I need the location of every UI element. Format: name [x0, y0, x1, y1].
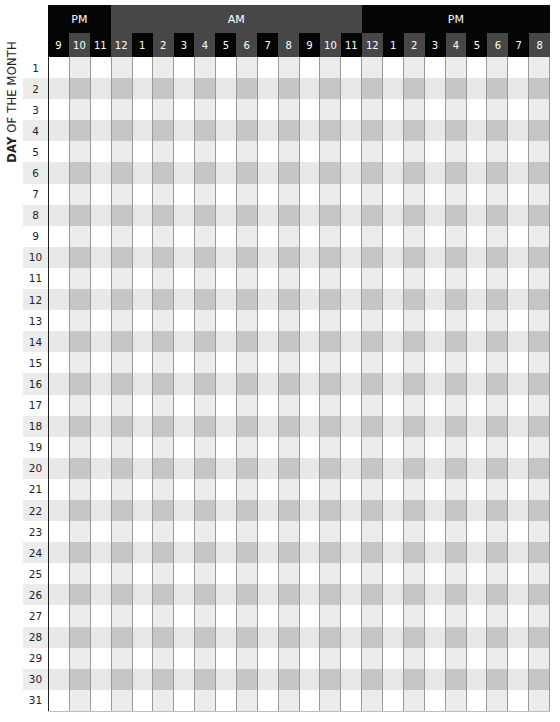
hour-cell[interactable]	[467, 99, 488, 120]
hour-cell[interactable]	[425, 563, 446, 584]
hour-cell[interactable]	[425, 605, 446, 626]
hour-cell[interactable]	[425, 584, 446, 605]
hour-cell[interactable]	[487, 584, 508, 605]
hour-cell[interactable]	[300, 542, 321, 563]
hour-cell[interactable]	[300, 268, 321, 289]
hour-cell[interactable]	[487, 395, 508, 416]
hour-cell[interactable]	[446, 162, 467, 183]
hour-cell[interactable]	[216, 542, 237, 563]
hour-cell[interactable]	[112, 500, 133, 521]
hour-cell[interactable]	[529, 331, 550, 352]
hour-cell[interactable]	[508, 247, 529, 268]
hour-cell[interactable]	[341, 57, 362, 78]
hour-cell[interactable]	[425, 99, 446, 120]
hour-cell[interactable]	[153, 289, 174, 310]
hour-cell[interactable]	[467, 627, 488, 648]
hour-cell[interactable]	[133, 247, 154, 268]
hour-cell[interactable]	[383, 205, 404, 226]
hour-cell[interactable]	[153, 78, 174, 99]
hour-cell[interactable]	[153, 627, 174, 648]
hour-cell[interactable]	[279, 669, 300, 690]
hour-cell[interactable]	[467, 437, 488, 458]
hour-cell[interactable]	[174, 184, 195, 205]
hour-cell[interactable]	[91, 669, 112, 690]
hour-cell[interactable]	[404, 395, 425, 416]
hour-cell[interactable]	[258, 521, 279, 542]
hour-cell[interactable]	[258, 247, 279, 268]
hour-cell[interactable]	[404, 542, 425, 563]
hour-cell[interactable]	[70, 542, 91, 563]
hour-cell[interactable]	[508, 226, 529, 247]
hour-cell[interactable]	[341, 184, 362, 205]
hour-cell[interactable]	[529, 605, 550, 626]
hour-cell[interactable]	[487, 268, 508, 289]
hour-cell[interactable]	[49, 289, 70, 310]
hour-cell[interactable]	[529, 669, 550, 690]
hour-cell[interactable]	[320, 542, 341, 563]
hour-cell[interactable]	[112, 289, 133, 310]
hour-cell[interactable]	[300, 331, 321, 352]
hour-cell[interactable]	[279, 141, 300, 162]
hour-cell[interactable]	[383, 416, 404, 437]
hour-cell[interactable]	[49, 542, 70, 563]
hour-cell[interactable]	[195, 99, 216, 120]
hour-cell[interactable]	[91, 268, 112, 289]
hour-cell[interactable]	[258, 352, 279, 373]
hour-cell[interactable]	[362, 584, 383, 605]
hour-cell[interactable]	[529, 648, 550, 669]
hour-cell[interactable]	[279, 331, 300, 352]
hour-cell[interactable]	[320, 162, 341, 183]
hour-cell[interactable]	[300, 584, 321, 605]
hour-cell[interactable]	[487, 205, 508, 226]
hour-cell[interactable]	[70, 352, 91, 373]
hour-cell[interactable]	[279, 120, 300, 141]
hour-cell[interactable]	[174, 563, 195, 584]
hour-cell[interactable]	[320, 458, 341, 479]
hour-cell[interactable]	[362, 331, 383, 352]
hour-cell[interactable]	[279, 458, 300, 479]
hour-cell[interactable]	[425, 120, 446, 141]
hour-cell[interactable]	[70, 78, 91, 99]
hour-cell[interactable]	[258, 669, 279, 690]
hour-cell[interactable]	[508, 289, 529, 310]
hour-cell[interactable]	[112, 542, 133, 563]
hour-cell[interactable]	[529, 226, 550, 247]
hour-cell[interactable]	[49, 458, 70, 479]
hour-cell[interactable]	[237, 331, 258, 352]
hour-cell[interactable]	[174, 205, 195, 226]
hour-cell[interactable]	[112, 57, 133, 78]
hour-cell[interactable]	[467, 500, 488, 521]
hour-cell[interactable]	[133, 500, 154, 521]
hour-cell[interactable]	[467, 458, 488, 479]
hour-cell[interactable]	[383, 289, 404, 310]
hour-cell[interactable]	[258, 226, 279, 247]
hour-cell[interactable]	[258, 563, 279, 584]
hour-cell[interactable]	[383, 605, 404, 626]
hour-cell[interactable]	[279, 605, 300, 626]
hour-cell[interactable]	[174, 395, 195, 416]
hour-cell[interactable]	[341, 331, 362, 352]
hour-cell[interactable]	[258, 605, 279, 626]
hour-cell[interactable]	[237, 247, 258, 268]
hour-cell[interactable]	[70, 247, 91, 268]
hour-cell[interactable]	[446, 289, 467, 310]
hour-cell[interactable]	[383, 395, 404, 416]
hour-cell[interactable]	[112, 605, 133, 626]
hour-cell[interactable]	[529, 352, 550, 373]
hour-cell[interactable]	[237, 226, 258, 247]
hour-cell[interactable]	[425, 57, 446, 78]
hour-cell[interactable]	[195, 416, 216, 437]
hour-cell[interactable]	[174, 648, 195, 669]
hour-cell[interactable]	[383, 690, 404, 711]
hour-cell[interactable]	[404, 563, 425, 584]
hour-cell[interactable]	[446, 479, 467, 500]
hour-cell[interactable]	[216, 289, 237, 310]
hour-cell[interactable]	[49, 627, 70, 648]
hour-cell[interactable]	[216, 563, 237, 584]
hour-cell[interactable]	[467, 289, 488, 310]
hour-cell[interactable]	[153, 57, 174, 78]
hour-cell[interactable]	[300, 458, 321, 479]
hour-cell[interactable]	[362, 268, 383, 289]
hour-cell[interactable]	[112, 184, 133, 205]
hour-cell[interactable]	[112, 395, 133, 416]
